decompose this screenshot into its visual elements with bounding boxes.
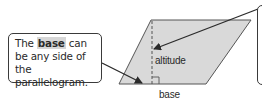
callout-highlight-base: base — [37, 37, 66, 49]
base-label: base — [159, 89, 180, 100]
altitude-callout-box — [257, 5, 262, 85]
base-callout-box: The base can be any side of the parallel… — [8, 33, 102, 83]
parallelogram-shape — [119, 20, 251, 84]
callout-text-before: The — [15, 37, 37, 49]
altitude-label: altitude — [155, 55, 186, 66]
